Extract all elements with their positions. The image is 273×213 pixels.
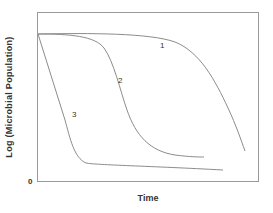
- survival-curve-chart: [0, 0, 273, 213]
- plot-frame: [38, 13, 259, 182]
- curve-2-label: 2: [118, 76, 122, 85]
- curve-3-label: 3: [72, 110, 76, 119]
- curve-1-label: 1: [160, 41, 164, 50]
- curve-3: [38, 34, 223, 170]
- y-axis-label: Log (Microbial Population): [4, 36, 14, 157]
- x-axis-label: Time: [138, 193, 159, 203]
- y-origin-tick-label: 0: [28, 177, 32, 186]
- curve-2: [38, 34, 204, 157]
